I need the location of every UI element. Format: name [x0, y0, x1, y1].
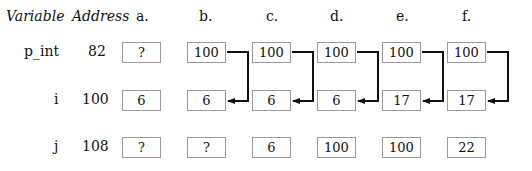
pointer-arrow-c — [292, 52, 313, 101]
pointer-arrow-f — [487, 52, 508, 101]
pointer-arrows — [0, 0, 532, 171]
pointer-arrow-e — [422, 52, 443, 101]
pointer-arrow-b — [227, 52, 248, 101]
pointer-arrow-d — [357, 52, 378, 101]
